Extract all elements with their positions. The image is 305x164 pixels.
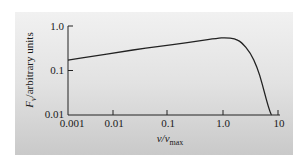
- x-tick-label: 0.001: [60, 117, 85, 129]
- y-tick-label: 1.0: [50, 20, 64, 32]
- x-tick-label: 0.01: [104, 117, 123, 129]
- x-tick-label: 1.0: [216, 117, 230, 129]
- x-tick-label: 0.1: [161, 117, 175, 129]
- spectrum-curve: [68, 38, 271, 115]
- svg-text:Fν/arbitrary units: Fν/arbitrary units: [23, 32, 38, 108]
- x-tick-label: 10: [274, 117, 286, 129]
- x-axis-title: ν/νmax: [157, 132, 184, 147]
- chart-svg: 1.0 0.1 0.01 0.001 0.01 0.1 1.0 10 ν/νma…: [0, 0, 305, 164]
- y-axis-title: Fν/arbitrary units: [23, 32, 38, 108]
- y-tick-label: 0.1: [50, 64, 64, 76]
